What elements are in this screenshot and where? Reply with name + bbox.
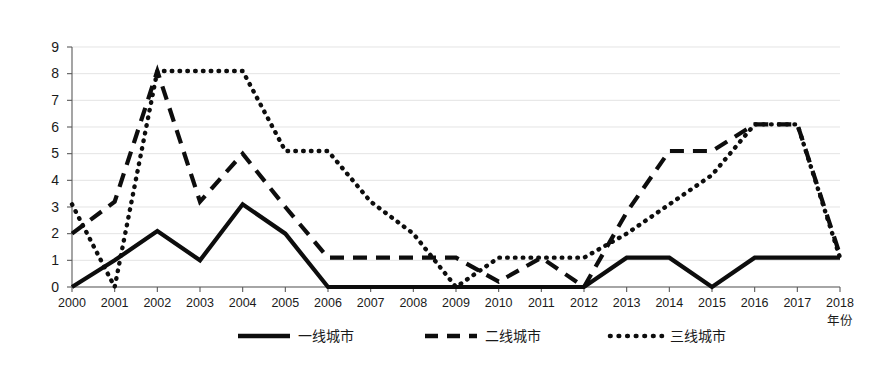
legend-label: 三线城市 [670,328,726,344]
series-line-2 [72,71,840,287]
x-tick-label: 2002 [143,296,171,310]
y-tick-label: 4 [51,172,59,188]
y-tick-label: 3 [51,199,59,215]
x-tick-label: 2014 [655,296,683,310]
legend-item-2[interactable]: 二线城市 [425,328,541,344]
x-tick-label: 2018 [826,296,854,310]
x-tick-label: 2006 [314,296,342,310]
x-tick-label: 2011 [528,296,555,310]
y-tick-label: 1 [51,252,59,268]
legend-item-1[interactable]: 一线城市 [238,328,354,344]
y-tick-label: 5 [51,145,59,161]
data-series [72,71,840,287]
x-tick-label: 2001 [101,296,129,310]
y-tick-label: 8 [51,65,59,81]
x-tick-label: 2005 [271,296,299,310]
x-tick-label: 2016 [741,296,769,310]
x-axis-tick-labels: 2000200120022003200420052006200720082009… [58,296,854,310]
x-tick-label: 2000 [58,296,86,310]
series-line-1 [72,204,840,287]
x-tick-label: 2012 [570,296,598,310]
x-tick-label: 2007 [357,296,385,310]
x-axis-title: 年份 [827,314,853,328]
legend-label: 一线城市 [298,328,354,344]
x-tick-label: 2008 [399,296,427,310]
legend-label: 二线城市 [485,328,541,344]
x-tick-label: 2010 [485,296,513,310]
y-tick-label: 9 [51,39,59,55]
chart-canvas: 0123456789 20002001200220032004200520062… [0,0,896,366]
x-tick-label: 2015 [698,296,726,310]
y-tick-label: 2 [51,225,59,241]
x-tick-label: 2017 [783,296,811,310]
x-tick-label: 2013 [613,296,641,310]
y-axis-ticks: 0123456789 [51,39,72,295]
legend-item-3[interactable]: 三线城市 [610,328,726,344]
series-line-3 [72,71,840,287]
chart-legend: 一线城市二线城市三线城市 [238,328,726,344]
line-chart-figure: 0123456789 20002001200220032004200520062… [0,0,896,366]
x-tick-label: 2009 [442,296,470,310]
y-tick-label: 7 [51,92,59,108]
x-tick-label: 2003 [186,296,214,310]
y-tick-label: 0 [51,279,59,295]
y-tick-label: 6 [51,119,59,135]
x-tick-label: 2004 [229,296,257,310]
